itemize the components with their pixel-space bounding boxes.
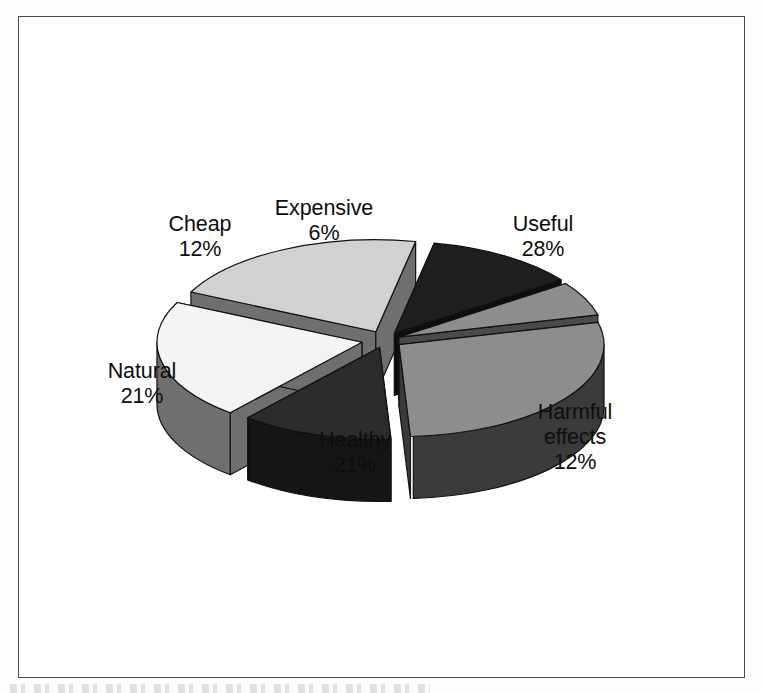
slice-label-cheap-name: Cheap	[140, 212, 260, 237]
slice-label-healthy-name: Healthy	[290, 428, 420, 453]
slice-label-natural: Natural 21%	[82, 359, 202, 409]
slice-label-cheap: Cheap 12%	[140, 212, 260, 262]
slice-label-useful-name: Useful	[478, 212, 608, 237]
slice-label-expensive-name: Expensive	[249, 196, 399, 221]
slice-label-useful: Useful 28%	[478, 212, 608, 262]
slice-label-natural-name: Natural	[82, 359, 202, 384]
figure-root: Cheap 12% Expensive 6% Useful 28% Natura…	[0, 0, 763, 693]
slice-label-expensive: Expensive 6%	[249, 196, 399, 246]
slice-label-healthy: Healthy 21%	[290, 428, 420, 478]
slice-label-harmful-name-line2: effects	[500, 425, 650, 450]
slice-label-healthy-percent: 21%	[290, 453, 420, 478]
slice-label-harmful-effects: Harmful effects 12%	[500, 400, 650, 475]
scan-edge-artifact	[10, 684, 430, 693]
slice-label-useful-percent: 28%	[478, 237, 608, 262]
slice-label-harmful-percent: 12%	[500, 450, 650, 475]
slice-label-cheap-percent: 12%	[140, 237, 260, 262]
slice-label-natural-percent: 21%	[82, 384, 202, 409]
slice-label-harmful-name-line1: Harmful	[500, 400, 650, 425]
slice-label-expensive-percent: 6%	[249, 221, 399, 246]
pie-chart-graphic	[0, 0, 763, 693]
